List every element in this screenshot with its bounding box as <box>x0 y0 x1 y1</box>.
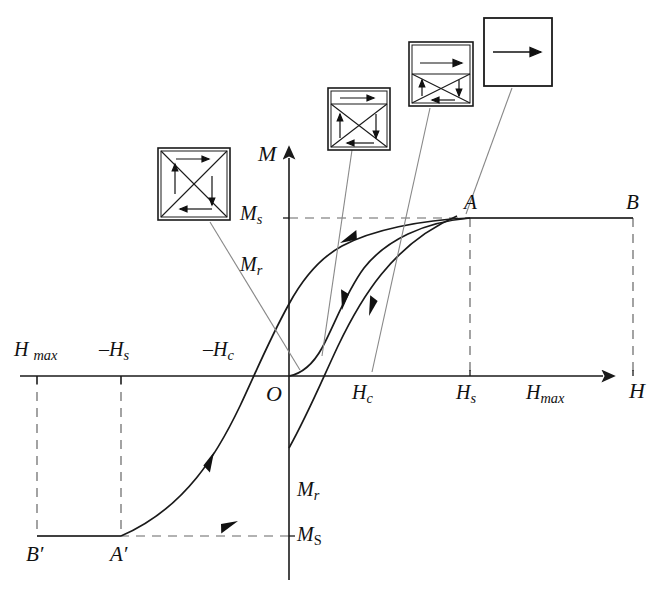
arrow-initial-lower <box>363 295 378 317</box>
tick-label-hs: Hs <box>456 381 476 407</box>
point-label-b-prime: B′ <box>26 542 43 567</box>
initial-magnetization-curve <box>289 218 470 376</box>
point-label-a: A <box>464 190 477 215</box>
tick-label-mr-upper: Mr <box>240 253 262 279</box>
tick-label-mr-lower: Mr <box>297 478 319 504</box>
axis-group <box>20 158 603 580</box>
tick-label-ms-upper: Ms <box>240 202 262 228</box>
origin-label: O <box>266 381 282 407</box>
inset-2-domain-wall-motion <box>328 88 390 150</box>
arrow-ascend-lower <box>336 289 350 311</box>
descending-branch <box>121 218 470 536</box>
inset-4-domain-saturated <box>484 18 552 86</box>
tick-label-hc: Hc <box>352 381 373 407</box>
connector-inset-2 <box>322 150 352 356</box>
tick-label-hmax-left: H max <box>14 338 57 364</box>
point-label-b: B <box>626 190 639 215</box>
y-axis-label: M <box>258 141 276 167</box>
hysteresis-figure: M H O Ms Mr Mr MS H max –Hs –Hc Hc Hs Hm… <box>0 0 663 597</box>
tick-label-ms-lower: MS <box>297 523 322 549</box>
point-label-a-prime: A′ <box>110 542 127 567</box>
hysteresis-plot-svg <box>0 0 663 597</box>
inset-2-frame <box>328 88 390 150</box>
tick-label-hmax-right: Hmax <box>526 381 564 407</box>
tick-label-neg-hc: –Hc <box>203 338 234 364</box>
arrow-descend-lower-left <box>202 451 219 473</box>
inset-1-domain-demagnetized <box>158 148 230 220</box>
tick-label-neg-hs: –Hs <box>99 338 129 364</box>
inset-3-domain-growth <box>409 42 473 106</box>
arrow-ascend-bottom <box>218 518 240 533</box>
ascending-branch <box>289 216 457 448</box>
x-axis-label: H <box>629 378 645 404</box>
